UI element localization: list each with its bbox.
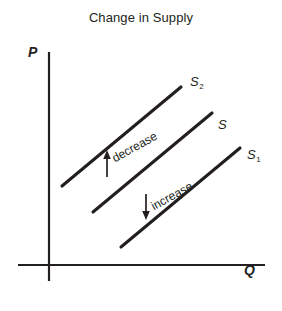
curve-label-s2-main: S <box>190 74 199 89</box>
curve-label-s1-subscript: 1 <box>256 155 260 164</box>
curve-label-s-main: S <box>218 117 227 132</box>
supply-shift-figure: Change in Supply P Q S2 S S1 decrease in… <box>0 0 282 311</box>
x-axis-label: Q <box>244 262 255 278</box>
curve-label-s1: S1 <box>247 147 260 162</box>
curve-label-s1-main: S <box>247 147 256 162</box>
increase-arrow-icon <box>142 194 150 220</box>
supply-curve-s2 <box>62 87 181 186</box>
curve-label-s: S <box>218 117 227 132</box>
y-axis-label: P <box>28 44 37 60</box>
curve-label-s2-subscript: 2 <box>199 82 203 91</box>
curve-label-s2: S2 <box>190 74 203 89</box>
diagram-canvas <box>0 0 282 311</box>
